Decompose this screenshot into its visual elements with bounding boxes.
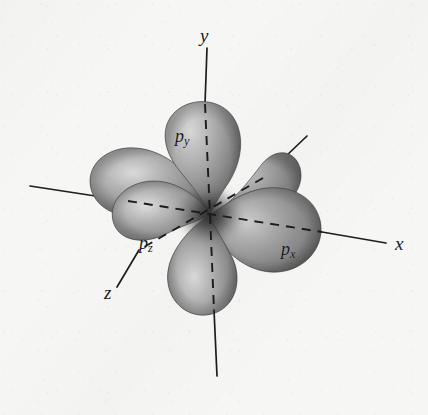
axis-y-positive-solid (205, 48, 207, 104)
orbital-label-py: py (175, 127, 189, 148)
figure-canvas: y x z py px pz (0, 0, 428, 415)
axis-y-negative-solid (214, 310, 217, 376)
orbital-label-pz-subscript: z (148, 241, 153, 255)
orbital-label-px-subscript: x (290, 247, 295, 261)
axis-x-positive-solid (322, 232, 386, 243)
orbital-label-px-symbol: p (281, 239, 290, 259)
orbital-label-pz: pz (139, 234, 153, 255)
axis-z-positive-solid (117, 250, 139, 287)
axis-label-z: z (104, 283, 111, 302)
axis-label-y: y (200, 26, 208, 45)
orbital-label-pz-symbol: p (139, 233, 148, 253)
orbital-label-py-symbol: p (175, 126, 184, 146)
orbital-label-px: px (281, 240, 295, 261)
orbital-label-py-subscript: y (184, 134, 189, 148)
axis-label-x: x (395, 234, 403, 253)
p-orbital-illustration (0, 0, 428, 415)
